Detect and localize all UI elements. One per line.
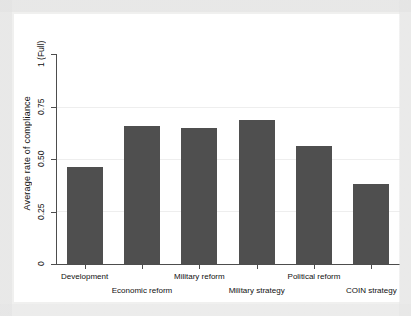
- x-tick-label-3: Military strategy: [229, 286, 285, 295]
- x-axis-line: [56, 264, 400, 265]
- chart-screenshot: Average rate of compliance 00.250.500.75…: [0, 0, 411, 316]
- bar-political-reform: [296, 146, 332, 264]
- x-tick-4: [314, 265, 315, 269]
- bar-coin-strategy: [353, 184, 389, 264]
- y-tick-4: [51, 54, 56, 55]
- y-tick-label-1: 0.25: [36, 190, 46, 234]
- y-tick-label-0: 0: [36, 242, 46, 286]
- x-tick-label-1: Economic reform: [112, 286, 172, 295]
- x-tick-label-5: COIN strategy: [346, 286, 397, 295]
- bar-military-strategy: [239, 120, 275, 264]
- bar-military-reform: [181, 128, 217, 265]
- bar-economic-reform: [124, 126, 160, 264]
- y-axis-title: Average rate of compliance: [22, 96, 32, 211]
- x-tick-label-0: Development: [61, 272, 108, 281]
- y-tick-label-3: 0.75: [36, 85, 46, 129]
- y-tick-2: [51, 159, 56, 160]
- y-tick-label-2: 0.50: [36, 137, 46, 181]
- y-axis-line: [56, 54, 57, 265]
- y-tick-label-4: 1 (Full): [36, 32, 46, 76]
- x-tick-3: [257, 265, 258, 269]
- x-tick-5: [371, 265, 372, 269]
- bar-development: [67, 167, 103, 264]
- y-tick-1: [51, 212, 56, 213]
- x-tick-2: [199, 265, 200, 269]
- x-tick-label-2: Military reform: [174, 272, 225, 281]
- x-tick-1: [142, 265, 143, 269]
- bars-layer: [56, 54, 400, 264]
- x-tick-0: [85, 265, 86, 269]
- y-tick-0: [51, 264, 56, 265]
- x-tick-label-4: Political reform: [288, 272, 341, 281]
- y-tick-3: [51, 107, 56, 108]
